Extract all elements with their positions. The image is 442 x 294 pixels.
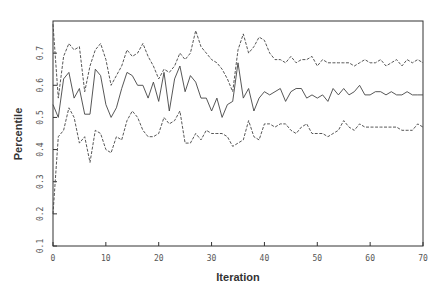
y-tick-label: 0.7 <box>36 46 45 61</box>
x-tick-label: 20 <box>154 254 164 263</box>
x-tick-label: 70 <box>418 254 428 263</box>
y-tick-label: 0.3 <box>36 174 45 189</box>
y-tick-label: 0.4 <box>36 142 45 157</box>
x-tick-label: 30 <box>207 254 217 263</box>
x-axis-title: Iteration <box>216 271 260 283</box>
x-tick-label: 10 <box>101 254 111 263</box>
y-tick-label: 0.5 <box>36 110 45 125</box>
y-axis-title: Percentile <box>12 108 24 161</box>
line-chart: 0.10.20.30.40.50.60.7 010203040506070 It… <box>0 0 442 294</box>
series-layer <box>53 24 423 214</box>
y-tick-label: 0.2 <box>36 206 45 221</box>
y-axis: 0.10.20.30.40.50.60.7 <box>36 46 57 253</box>
plot-border <box>53 21 423 246</box>
x-tick-label: 40 <box>260 254 270 263</box>
upper-percentile-line <box>53 24 423 98</box>
y-tick-label: 0.1 <box>36 239 45 254</box>
x-axis: 010203040506070 <box>51 242 428 263</box>
x-tick-label: 0 <box>51 254 56 263</box>
x-tick-label: 60 <box>365 254 375 263</box>
x-tick-label: 50 <box>312 254 322 263</box>
plot-frame <box>53 21 423 246</box>
lower-percentile-line <box>53 108 423 214</box>
median-line <box>53 63 423 118</box>
y-tick-label: 0.6 <box>36 78 45 93</box>
